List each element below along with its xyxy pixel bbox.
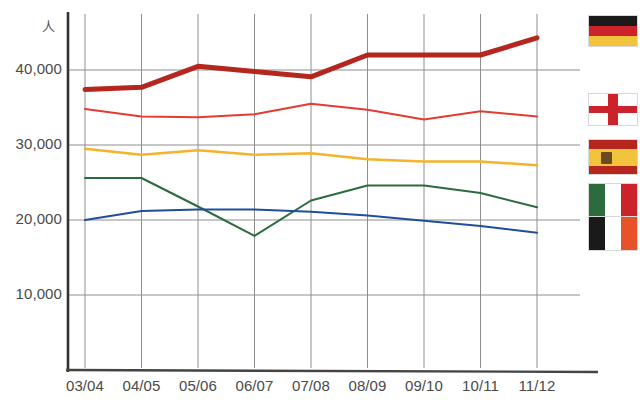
flag-stripe [589,217,605,250]
flag-stripe [589,184,605,217]
flag-stripe [589,36,637,46]
flag-stripe [589,149,637,166]
line-chart: 人 40,00030,00020,00010,000 03/0404/0505/… [0,0,640,416]
y-axis-tick-label: 30,000 [0,135,62,152]
y-axis-tick-label: 40,000 [0,60,62,77]
y-axis-tick-label: 10,000 [0,285,62,302]
flag-stripe [589,140,637,149]
flag-stripe [621,184,637,217]
flag-stripe [589,166,637,175]
x-axis-tick-label: 11/12 [502,377,572,394]
flag-england-icon[interactable] [588,93,638,126]
flag-stripe [589,16,637,26]
y-axis-tick-label: 20,000 [0,210,62,227]
flag-stripe [589,26,637,36]
flag-ireland-icon[interactable] [588,216,638,251]
x-axis-line [66,370,598,372]
flag-stripe [621,217,637,250]
flag-cross-horizontal [589,106,637,112]
flag-germany-icon[interactable] [588,15,638,47]
flag-stripe [605,217,621,250]
flag-italy-icon[interactable] [588,183,638,218]
spain-coat-of-arms-icon [601,152,612,164]
flag-spain-icon[interactable] [588,139,638,175]
plot-area [0,0,640,416]
flag-stripe [605,184,621,217]
